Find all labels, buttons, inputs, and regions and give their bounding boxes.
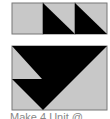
top-row-units xyxy=(12,3,107,34)
bottom-block xyxy=(12,46,107,110)
quilt-diagram xyxy=(0,0,110,119)
unit-plain-square xyxy=(12,3,43,34)
diagram-caption: Make 4 Unit @ xyxy=(10,112,83,119)
